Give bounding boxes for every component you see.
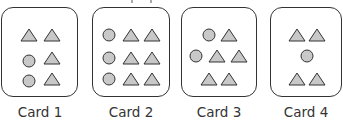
card-4-label: Card 4 (266, 104, 343, 120)
circle-icon (301, 50, 313, 62)
triangle-icon (123, 52, 139, 64)
card-1-shapes (2, 8, 79, 98)
card-2 (92, 7, 170, 97)
card-3-shapes (182, 8, 258, 98)
card-4 (270, 7, 342, 97)
triangle-icon (123, 73, 139, 85)
triangle-icon (231, 50, 247, 62)
triangle-icon (201, 73, 217, 85)
card-2-shapes (93, 8, 171, 98)
triangle-icon (309, 73, 325, 85)
circle-icon (203, 29, 215, 41)
triangle-icon (144, 29, 160, 41)
triangle-icon (309, 29, 325, 41)
triangle-icon (221, 73, 237, 85)
card-1-label: Card 1 (0, 104, 80, 120)
circle-icon (23, 55, 35, 67)
card-4-shapes (271, 8, 343, 98)
clipped-text-above (0, 0, 343, 7)
triangle-icon (123, 29, 139, 41)
card-1 (1, 7, 78, 97)
triangle-icon (144, 73, 160, 85)
triangle-icon (289, 73, 305, 85)
triangle-icon (21, 29, 37, 41)
triangle-icon (44, 29, 60, 41)
circle-icon (103, 29, 115, 41)
triangle-icon (209, 50, 225, 62)
circle-icon (103, 73, 115, 85)
card-2-label: Card 2 (91, 104, 171, 120)
triangle-icon (144, 52, 160, 64)
triangle-icon (44, 52, 60, 64)
triangle-icon (221, 29, 237, 41)
circle-icon (23, 75, 35, 87)
circle-icon (103, 52, 115, 64)
card-3 (181, 7, 257, 97)
circle-icon (190, 50, 202, 62)
card-3-label: Card 3 (179, 104, 259, 120)
triangle-icon (44, 73, 60, 85)
triangle-icon (289, 29, 305, 41)
